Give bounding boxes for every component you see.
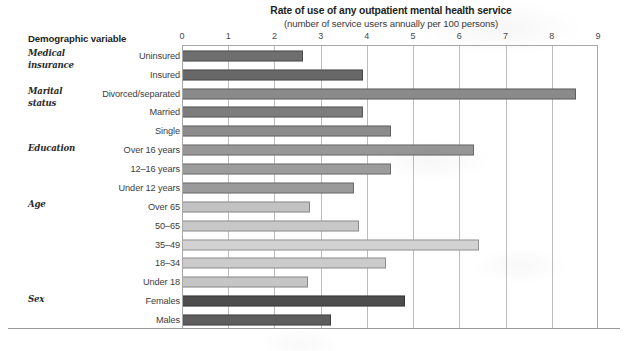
category-label: 18–34: [155, 258, 180, 268]
chart-figure: Rate of use of any outpatient mental hea…: [0, 0, 626, 351]
category-label: Under 18: [143, 277, 180, 287]
x-tick-4: 4: [364, 31, 369, 41]
chart-title-block: Rate of use of any outpatient mental hea…: [182, 4, 600, 30]
group-label: Sex: [28, 294, 44, 306]
x-tick-3: 3: [318, 31, 323, 41]
group-label: Education: [28, 143, 75, 155]
x-axis-tick-labels: 0123456789: [0, 31, 626, 45]
x-tick-7: 7: [503, 31, 508, 41]
category-label: Under 12 years: [119, 183, 180, 193]
x-tick-2: 2: [272, 31, 277, 41]
chart-subtitle: (number of service users annually per 10…: [182, 17, 600, 30]
category-label: Over 16 years: [124, 145, 180, 155]
x-tick-5: 5: [411, 31, 416, 41]
bottom-axis-line: [8, 328, 620, 329]
bar: [183, 296, 405, 307]
bar: [183, 258, 386, 269]
category-label: Single: [155, 126, 180, 136]
group-label: Age: [28, 199, 46, 211]
group-label: Medical insurance: [28, 48, 74, 71]
group-label: Marital status: [28, 86, 62, 109]
bar: [183, 69, 363, 80]
bar: [183, 201, 310, 212]
x-tick-8: 8: [549, 31, 554, 41]
bar: [183, 164, 391, 175]
x-tick-1: 1: [226, 31, 231, 41]
bar: [183, 50, 303, 61]
category-label: Divorced/separated: [102, 89, 180, 99]
category-label: Uninsured: [139, 51, 180, 61]
category-label: Over 65: [148, 202, 180, 212]
bar: [183, 107, 363, 118]
x-tick-0: 0: [179, 31, 184, 41]
bar: [183, 182, 354, 193]
bar: [183, 239, 479, 250]
bar: [183, 145, 474, 156]
category-label: 12–16 years: [131, 164, 180, 174]
bar: [183, 88, 576, 99]
category-label: 50–65: [155, 221, 180, 231]
chart-title: Rate of use of any outpatient mental hea…: [182, 4, 600, 17]
category-label: Females: [145, 296, 180, 306]
category-label: Insured: [150, 70, 180, 80]
category-label: Males: [156, 315, 180, 325]
bar: [183, 220, 359, 231]
x-tick-6: 6: [457, 31, 462, 41]
bar-rows: UninsuredInsuredDivorced/separatedMarrie…: [0, 45, 626, 328]
bar: [183, 126, 391, 137]
category-label: Married: [150, 107, 180, 117]
x-tick-9: 9: [595, 31, 600, 41]
category-label: 35–49: [155, 240, 180, 250]
bar: [183, 315, 331, 326]
bar: [183, 277, 308, 288]
